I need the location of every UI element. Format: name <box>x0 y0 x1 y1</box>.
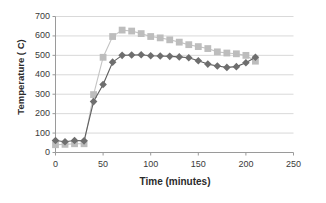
data-point-diamond <box>166 53 174 61</box>
series-line <box>56 30 256 145</box>
data-point-square <box>128 28 135 35</box>
data-point-diamond <box>175 53 183 61</box>
data-point-diamond <box>223 64 231 72</box>
data-point-diamond <box>156 52 164 60</box>
series-square <box>52 27 259 148</box>
axis-lines <box>56 17 294 153</box>
data-point-diamond <box>242 59 250 67</box>
data-point-diamond <box>233 63 241 71</box>
data-point-square <box>176 39 183 46</box>
temperature-vs-time-chart: Temperature ( C) 0100200300400500600700 … <box>0 0 326 203</box>
data-point-diamond <box>99 81 107 89</box>
data-point-diamond <box>195 57 203 65</box>
data-point-square <box>185 41 192 48</box>
x-axis-title: Time (minutes) <box>55 176 295 187</box>
data-point-square <box>119 27 126 34</box>
series-diamond <box>52 51 260 146</box>
data-point-square <box>109 33 116 40</box>
data-point-square <box>138 30 145 37</box>
plot-area <box>0 0 326 203</box>
data-point-diamond <box>118 52 126 60</box>
data-point-diamond <box>204 60 212 68</box>
gridlines <box>56 17 294 134</box>
data-point-square <box>100 54 107 61</box>
data-point-square <box>204 45 211 52</box>
data-point-square <box>243 52 250 59</box>
data-point-diamond <box>147 52 155 60</box>
data-point-diamond <box>109 58 117 66</box>
data-point-diamond <box>137 51 145 59</box>
data-point-diamond <box>128 51 136 59</box>
data-point-square <box>166 36 173 43</box>
data-point-square <box>147 33 154 40</box>
data-point-square <box>223 50 230 57</box>
data-series-layer <box>52 27 260 148</box>
data-point-square <box>195 43 202 50</box>
data-point-square <box>214 48 221 55</box>
data-point-diamond <box>214 62 222 70</box>
data-point-square <box>233 50 240 57</box>
data-point-diamond <box>90 98 98 106</box>
data-point-square <box>157 34 164 41</box>
